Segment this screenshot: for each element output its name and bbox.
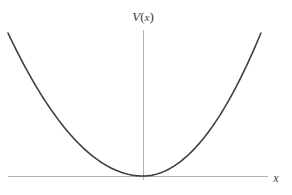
parabola-plot: V(x) x [0, 0, 292, 195]
y-axis-label-close-paren: ) [149, 9, 153, 24]
figure-root: V(x) x [0, 0, 292, 195]
x-axis-label: x [272, 171, 279, 185]
y-axis-label: V(x) [132, 9, 154, 24]
